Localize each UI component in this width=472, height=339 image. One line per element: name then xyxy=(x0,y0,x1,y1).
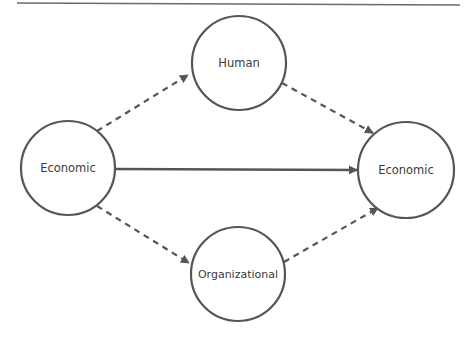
node-label: Human xyxy=(218,56,259,70)
node-label: Economic xyxy=(378,163,434,177)
node-organizational: Organizational xyxy=(191,227,285,321)
node-label: Economic xyxy=(40,161,96,175)
node-economic-target: Economic xyxy=(358,122,454,218)
edge-economic-to-organizational xyxy=(97,206,189,263)
diagram-canvas: Economic Human Organizational Economic xyxy=(0,0,472,339)
top-rule xyxy=(17,3,460,5)
edge-economic-to-human xyxy=(97,75,188,131)
node-label: Organizational xyxy=(198,268,278,281)
node-economic-source: Economic xyxy=(21,121,115,215)
node-human: Human xyxy=(192,16,286,110)
edge-organizational-to-economic xyxy=(284,208,378,262)
edge-economic-to-economic xyxy=(115,169,357,170)
edge-human-to-economic xyxy=(282,83,373,133)
